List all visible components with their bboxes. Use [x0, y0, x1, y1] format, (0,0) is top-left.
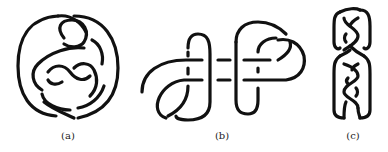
- caption-c: (c): [333, 130, 373, 141]
- knot-diagram-c: [330, 4, 374, 122]
- knot-diagram-b: [140, 12, 310, 124]
- caption-a: (a): [48, 130, 88, 141]
- knot-diagram-a: [14, 10, 126, 122]
- caption-b: (b): [202, 130, 242, 141]
